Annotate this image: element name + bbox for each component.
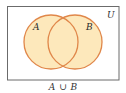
- set-b-label: B: [86, 23, 93, 32]
- diagram-caption: A ∪ B: [0, 83, 126, 92]
- caption-set-a: A: [49, 82, 56, 92]
- set-a-label: A: [33, 23, 40, 32]
- universe-label: U: [107, 11, 115, 20]
- caption-set-b: B: [71, 82, 78, 92]
- union-symbol: ∪: [59, 82, 67, 92]
